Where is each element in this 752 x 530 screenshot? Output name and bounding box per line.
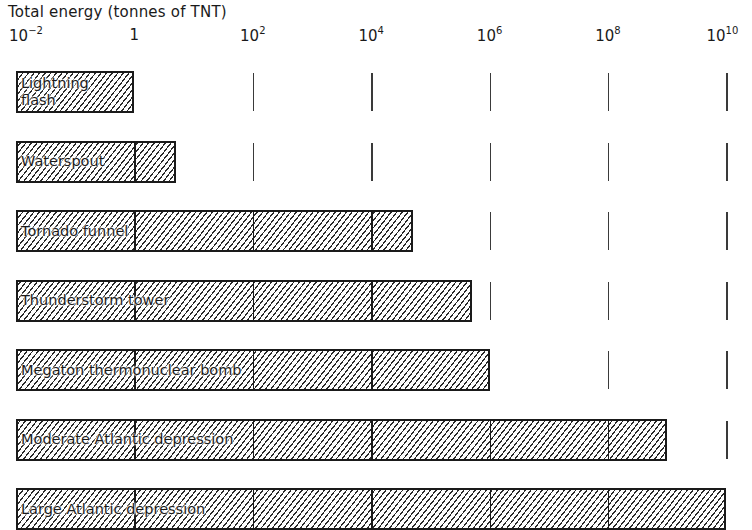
bar-gridline [608, 421, 609, 459]
grid-line [490, 73, 491, 111]
bar-gridline [134, 143, 135, 181]
bar-large-atlantic-depression: Large Atlantic depression [16, 488, 726, 530]
bar-thunderstorm-tower: Thunderstorm tower [16, 280, 472, 322]
bar-gridline [253, 282, 254, 320]
x-tick-label: 1010 [706, 26, 738, 45]
bar-gridline [490, 421, 491, 459]
bar-label: Thunderstorm tower [21, 292, 169, 309]
chart-title: Total energy (tonnes of TNT) [8, 3, 227, 21]
bar-gridline [253, 490, 254, 528]
x-tick-label: 102 [240, 26, 265, 45]
bar-gridline [371, 490, 372, 528]
bar-gridline [490, 490, 491, 528]
grid-line [726, 282, 727, 320]
grid-line [371, 143, 372, 181]
grid-line [726, 351, 727, 389]
bar-lightning-flash: Lightning flash [16, 71, 134, 113]
bar-label: Waterspout [21, 153, 104, 170]
bar-gridline [253, 351, 254, 389]
grid-line [253, 143, 254, 181]
grid-line [253, 73, 254, 111]
grid-line [608, 143, 609, 181]
bar-gridline [371, 282, 372, 320]
grid-line [608, 282, 609, 320]
grid-line [726, 421, 727, 459]
bar-label: Moderate Atlantic depression [21, 431, 233, 448]
bar-gridline [371, 421, 372, 459]
bar-gridline [608, 490, 609, 528]
grid-line [371, 73, 372, 111]
x-tick-label: 108 [595, 26, 620, 45]
grid-line [608, 73, 609, 111]
grid-line [726, 143, 727, 181]
grid-line [490, 212, 491, 250]
grid-line [608, 351, 609, 389]
bar-label: Large Atlantic depression [21, 501, 205, 518]
bar-waterspout: Waterspout [16, 141, 176, 183]
x-tick-label: 1 [130, 26, 140, 44]
x-tick-label: 104 [358, 26, 383, 45]
grid-line [726, 212, 727, 250]
grid-line [490, 282, 491, 320]
bar-label: Lightning flash [21, 75, 89, 109]
x-tick-label: 106 [477, 26, 502, 45]
bar-label: Tornado funnel [21, 223, 128, 240]
bar-tornado-funnel: Tornado funnel [16, 210, 413, 252]
bar-gridline [134, 212, 135, 250]
bar-gridline [253, 212, 254, 250]
bar-moderate-atlantic-depression: Moderate Atlantic depression [16, 419, 667, 461]
grid-line [726, 73, 727, 111]
bar-gridline [253, 421, 254, 459]
grid-line [490, 143, 491, 181]
bar-gridline [371, 351, 372, 389]
grid-line [608, 212, 609, 250]
bar-megaton-thermonuclear-bomb: Megaton thermonuclear bomb [16, 349, 490, 391]
bar-label: Megaton thermonuclear bomb [21, 362, 242, 379]
bar-gridline [371, 212, 372, 250]
x-tick-label: 10−2 [9, 26, 43, 45]
